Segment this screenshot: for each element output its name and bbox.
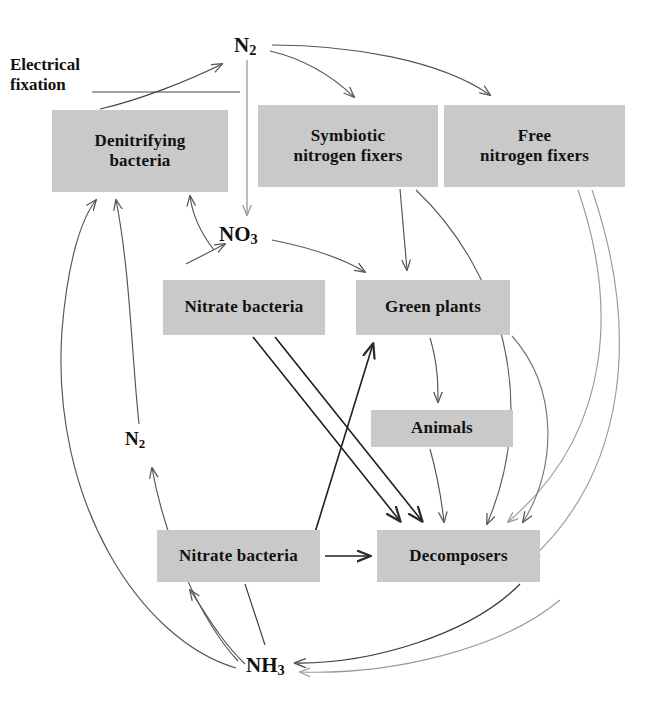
node-label: Denitrifying bacteria [88,131,191,171]
edge-electrical-fixation-to-n2 [100,64,222,109]
edge-nh3-to-denitrifying [61,200,236,668]
edge-symbiotic-fixers-to-green-plants [400,189,407,270]
node-label: Decomposers [403,546,514,566]
edge-decomposers-to-nh3 [295,584,520,663]
node-label: Nitrate bacteria [179,297,310,317]
label-electrical-fixation: Electrical fixation [10,55,80,95]
node-nitrate-bacteria-upper[interactable]: Nitrate bacteria [163,280,325,335]
edge-nitrate-bacteria-upper-to-no3 [186,244,225,264]
edge-nh3-to-nitrate-bacteria-lower [190,590,245,664]
node-denitrifying-bacteria[interactable]: Denitrifying bacteria [52,110,228,192]
edge-nitrate-bacteria-lower-to-nh3 [245,584,265,645]
edge-free-fixers-to-nh3 [530,190,619,560]
chem-formula: N [234,33,249,57]
chem-formula: NH [246,653,278,677]
chem-subscript: 2 [249,42,256,58]
edge-green-plants-to-animals [430,338,438,402]
node-animals[interactable]: Animals [371,410,513,447]
edge-outer-return-to-nh3 [300,600,560,672]
node-symbiotic-nitrogen-fixers[interactable]: Symbiotic nitrogen fixers [258,105,438,187]
edge-symbiotic-fixers-to-decomposers [416,190,511,524]
node-decomposers[interactable]: Decomposers [377,530,540,582]
edge-animals-to-decomposers [430,449,444,522]
node-nitrate-bacteria-lower[interactable]: Nitrate bacteria [157,530,320,582]
node-label: Symbiotic nitrogen fixers [288,126,409,166]
edge-n2-to-free-fixers [272,45,490,95]
node-label: Free nitrogen fixers [474,126,595,166]
edge-n2-left-to-denitrifying [116,200,139,424]
chem-subscript: 3 [278,662,285,678]
edge-free-fixers-to-decomposers [508,190,601,522]
node-label: Nitrate bacteria [173,546,304,566]
chem-formula: NO [219,222,251,246]
edge-no3-to-green-plants [272,240,365,272]
chem-subscript: 2 [139,436,145,451]
nitrogen-cycle-diagram: Denitrifying bacteria Symbiotic nitrogen… [0,0,648,719]
node-free-nitrogen-fixers[interactable]: Free nitrogen fixers [444,105,625,187]
edge-no3-to-denitrifying [190,196,214,250]
node-label: Animals [405,418,479,438]
edge-green-plants-to-decomposers [512,336,548,522]
chem-label-n2-top: N2 [234,33,256,58]
node-label: Green plants [379,297,487,317]
chem-label-nh3: NH3 [246,653,285,678]
chem-label-n2-left: N2 [125,428,145,450]
node-green-plants[interactable]: Green plants [356,280,510,335]
chem-label-no3: NO3 [219,222,258,247]
chem-formula: N [125,428,139,449]
chem-subscript: 3 [251,231,258,247]
edge-n2-to-symbiotic-fixers [270,51,354,97]
